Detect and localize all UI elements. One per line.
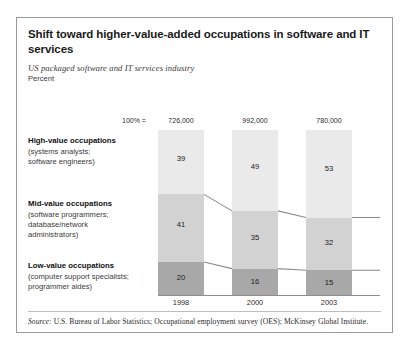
category-detail-mid-3: administrators) (28, 230, 163, 240)
bar-total-1998: 726,000 (158, 117, 204, 124)
category-heading-high: High-value occupations (28, 136, 163, 147)
exhibit-panel: Shift toward higher-value-added occupati… (16, 17, 393, 333)
segment-value-high-2003: 53 (306, 164, 352, 173)
segment-mid-2003[interactable]: 32 (306, 218, 352, 271)
segment-high-1998[interactable]: 39 (158, 130, 204, 194)
category-detail-mid-1: (software programmers; (28, 210, 163, 220)
source-note: Source: U.S. Bureau of Labor Statistics;… (28, 317, 388, 326)
segment-value-low-2000: 16 (232, 277, 278, 286)
segment-value-low-2003: 15 (306, 278, 352, 287)
segment-mid-2000[interactable]: 35 (232, 211, 278, 269)
segment-high-2003[interactable]: 53 (306, 130, 352, 218)
x-tick-2000: 2000 (232, 298, 278, 307)
x-axis-line (158, 295, 380, 296)
bar-total-2000: 992,000 (232, 117, 278, 124)
source-text: U.S. Bureau of Labor Statistics; Occupat… (52, 317, 368, 326)
bar-2000[interactable]: 49 35 16 (232, 130, 278, 295)
category-detail-mid-2: database/network (28, 220, 163, 230)
segment-value-mid-2000: 35 (232, 233, 278, 242)
percent-base-label: 100% = (122, 117, 146, 124)
segment-value-mid-1998: 41 (158, 220, 204, 229)
segment-low-2000[interactable]: 16 (232, 269, 278, 295)
category-label-high: High-value occupations (systems analysts… (28, 136, 163, 167)
segment-value-high-2000: 49 (232, 162, 278, 171)
category-label-low: Low-value occupations (computer support … (28, 261, 168, 292)
segment-value-mid-2003: 32 (306, 238, 352, 247)
category-label-mid: Mid-value occupations (software programm… (28, 199, 163, 240)
category-heading-low: Low-value occupations (28, 261, 168, 272)
category-detail-low-1: (computer support specialists; (28, 272, 168, 282)
category-heading-mid: Mid-value occupations (28, 199, 163, 210)
segment-low-2003[interactable]: 15 (306, 270, 352, 295)
category-detail-low-2: programmer aides) (28, 282, 168, 292)
bar-2003[interactable]: 53 32 15 (306, 130, 352, 295)
footer-divider (28, 311, 381, 312)
segment-high-2000[interactable]: 49 (232, 130, 278, 211)
x-tick-2003: 2003 (306, 298, 352, 307)
stacked-bar-chart: 100% = 726,000 992,000 780,000 39 41 (17, 18, 394, 334)
bar-total-2003: 780,000 (306, 117, 352, 124)
segment-mid-1998[interactable]: 41 (158, 194, 204, 262)
source-label: Source: (28, 317, 52, 326)
x-tick-1998: 1998 (158, 298, 204, 307)
category-detail-high-1: (systems analysts; (28, 147, 163, 157)
category-detail-high-2: software engineers) (28, 157, 163, 167)
segment-value-high-1998: 39 (158, 154, 204, 163)
